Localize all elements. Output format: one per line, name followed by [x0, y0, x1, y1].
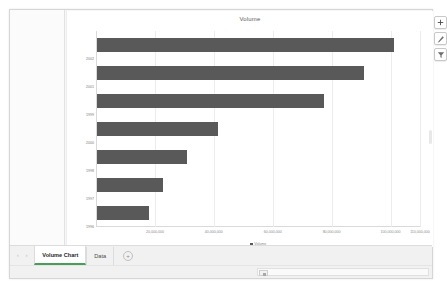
gridline — [391, 31, 392, 227]
bar-row[interactable]: 1998 — [97, 150, 187, 164]
bar[interactable] — [97, 122, 218, 136]
sheet-tab-data[interactable]: Data — [86, 247, 114, 265]
bar-row[interactable]: 1996 — [97, 206, 149, 220]
chart-side-buttons[interactable] — [434, 16, 447, 61]
vertical-scrollbar[interactable] — [429, 130, 432, 144]
category-axis-label: 1999 — [72, 108, 94, 122]
bar-row[interactable]: 2002 — [97, 38, 394, 52]
gridline — [332, 31, 333, 227]
value-axis-label: 60,000,000 — [264, 230, 282, 234]
bar-row[interactable]: 2000 — [97, 122, 218, 136]
worksheet-left-panel — [10, 10, 65, 247]
category-axis-label: 2000 — [72, 136, 94, 150]
bar[interactable] — [97, 178, 163, 192]
bar[interactable] — [97, 94, 324, 108]
sheet-tab-bar[interactable]: ‹ › Volume ChartData + — [10, 245, 432, 265]
category-axis-label: 1996 — [72, 220, 94, 234]
workbook-window: Volume 2002200119992000199819971996 20,0… — [9, 9, 433, 279]
chart-elements-button[interactable] — [434, 16, 447, 29]
horizontal-scrollbar-thumb[interactable] — [259, 270, 268, 276]
category-axis-label: 2002 — [72, 52, 94, 66]
value-axis-label: 40,000,000 — [205, 230, 223, 234]
value-axis-label: 80,000,000 — [323, 230, 341, 234]
chart-plot-area[interactable]: 2002200119992000199819971996 20,000,0004… — [96, 31, 420, 227]
horizontal-scroll-area[interactable] — [10, 265, 432, 278]
horizontal-scrollbar-track[interactable] — [257, 268, 429, 276]
chart-filters-button[interactable] — [434, 48, 447, 61]
value-axis-label: 110,000,000 — [410, 230, 430, 234]
sheet-nav-prev[interactable]: ‹ — [17, 253, 19, 258]
category-axis-label: 2001 — [72, 80, 94, 94]
gridline — [273, 31, 274, 227]
bar[interactable] — [97, 66, 364, 80]
sheet-tabs[interactable]: Volume ChartData — [34, 246, 114, 265]
bar[interactable] — [97, 38, 394, 52]
value-axis-label: 20,000,000 — [146, 230, 164, 234]
add-sheet-button[interactable]: + — [123, 251, 133, 261]
category-axis-label: 1997 — [72, 192, 94, 206]
category-axis-line — [96, 226, 420, 227]
sheet-nav-next[interactable]: › — [26, 253, 28, 258]
bar[interactable] — [97, 206, 149, 220]
gridline — [420, 31, 421, 227]
sheet-nav-arrows[interactable]: ‹ › — [14, 253, 34, 258]
bar-row[interactable]: 2001 — [97, 66, 364, 80]
sheet-tab-volume-chart[interactable]: Volume Chart — [34, 246, 86, 265]
bar[interactable] — [97, 150, 187, 164]
category-axis-label: 1998 — [72, 164, 94, 178]
chart-object[interactable]: Volume 2002200119992000199819971996 20,0… — [66, 11, 433, 247]
bar-row[interactable]: 1999 — [97, 94, 324, 108]
value-axis-label: 100,000,000 — [381, 230, 401, 234]
chart-title: Volume — [67, 16, 433, 22]
bar-row[interactable]: 1997 — [97, 178, 163, 192]
chart-styles-button[interactable] — [434, 32, 447, 45]
